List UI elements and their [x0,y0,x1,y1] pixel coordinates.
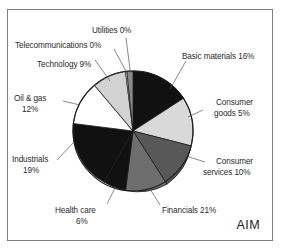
label-health-care-line1: Health care [55,206,96,216]
leader-line-telecommunications [114,49,128,74]
label-consumer-goods-line1: Consumer [216,98,253,108]
chart-page: Utilities 0% Telecommunications 0% Techn… [0,0,282,250]
leader-line-utilities [126,38,131,73]
leader-line-health-care [107,188,115,204]
label-consumer-services-line2: services 10% [203,168,251,178]
label-telecommunications: Telecommunications 0% [15,41,101,51]
label-utilities: Utilities 0% [92,26,131,36]
leader-line-industrials [57,142,74,160]
leader-line-consumer-services [189,157,205,162]
label-financials: Financials 21% [162,206,216,216]
label-industrials-line1: Industrials [12,155,48,165]
label-oil-and-gas-line1: Oil & gas [14,94,46,104]
label-industrials-line2: 19% [23,166,39,176]
chart-annotation-aim: AIM [237,218,260,232]
leader-line-basic-materials [170,61,186,89]
label-consumer-goods-line2: goods 5% [214,109,250,119]
leader-line-financials [150,189,160,205]
leader-line-oil-and-gas [63,101,80,105]
label-oil-and-gas-line2: 12% [22,105,38,115]
label-consumer-services-line1: Consumer [216,157,253,167]
pie-chart-graphic [0,0,282,250]
leader-line-technology [95,60,110,81]
label-health-care-line2: 6% [76,217,88,227]
label-basic-materials: Basic materials 16% [182,52,254,62]
label-technology: Technology 9% [37,60,91,70]
